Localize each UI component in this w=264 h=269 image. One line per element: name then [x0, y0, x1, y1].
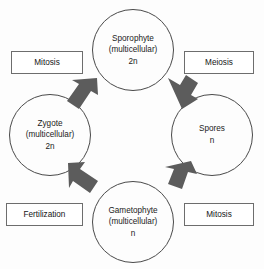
life-cycle-diagram: Sporophyte (multicellular) 2n Spores n G… [0, 0, 264, 269]
node-zygote-ploidy: 2n [45, 141, 54, 153]
node-zygote-name: Zygote [37, 118, 62, 130]
node-gametophyte-ploidy: n [131, 228, 136, 240]
arrow-gametophyte-to-zygote-icon [65, 158, 105, 196]
arrow-spores-to-gametophyte-icon [160, 158, 200, 196]
process-label-mitosis-bottom: Mitosis [184, 203, 254, 226]
node-spores-ploidy: n [210, 135, 215, 147]
node-gametophyte-qualifier: (multicellular) [109, 216, 158, 228]
node-sporophyte-ploidy: 2n [128, 56, 137, 68]
process-label-mitosis-bottom-text: Mitosis [206, 210, 231, 219]
process-label-fertilization: Fertilization [6, 203, 83, 226]
process-label-meiosis: Meiosis [184, 51, 254, 74]
node-sporophyte-qualifier: (multicellular) [109, 44, 158, 56]
node-zygote-qualifier: (multicellular) [26, 129, 75, 141]
process-label-mitosis-top-text: Mitosis [34, 58, 59, 67]
top-caption-fragment [6, 0, 206, 4]
process-label-fertilization-text: Fertilization [24, 210, 66, 219]
arrow-sporophyte-to-spores-icon [160, 76, 200, 114]
arrow-zygote-to-sporophyte-icon [65, 76, 105, 114]
node-spores-name: Spores [199, 123, 225, 135]
process-label-meiosis-text: Meiosis [205, 58, 233, 67]
node-gametophyte-name: Gametophyte [108, 205, 157, 217]
process-label-mitosis-top: Mitosis [11, 51, 83, 74]
node-sporophyte-name: Sporophyte [112, 33, 154, 45]
